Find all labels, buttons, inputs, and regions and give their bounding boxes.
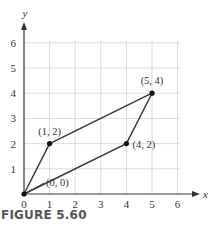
y-tick-label: 5: [11, 62, 17, 74]
x-tick-label: 6: [175, 198, 181, 210]
y-axis-label: y: [22, 7, 28, 19]
x-tick-label: 5: [149, 198, 155, 210]
vertex-label: (1, 2): [38, 126, 61, 138]
vertex-dot-icon: [21, 191, 26, 196]
label-leader-line: [28, 183, 44, 192]
y-tick-label: 3: [11, 112, 17, 124]
vertex-dot-icon: [149, 91, 154, 96]
x-axis-arrow-icon: [192, 191, 200, 197]
axes: xy: [21, 7, 208, 200]
x-axis-label: x: [202, 188, 208, 200]
vertex-label: (4, 2): [132, 139, 155, 151]
y-tick-label: 1: [11, 163, 17, 175]
y-tick-label: 2: [11, 138, 17, 150]
vertex-dot-icon: [47, 141, 52, 146]
vertex-dot-icon: [124, 141, 129, 146]
y-axis-arrow-icon: [21, 22, 27, 30]
vertex-label: (0, 0): [46, 177, 69, 189]
tick-labels: 0123456123456: [11, 37, 181, 210]
parallelogram-figure: xy 0123456123456 (0, 0)(1, 2)(5, 4)(4, 2…: [0, 0, 217, 233]
y-tick-label: 4: [11, 87, 17, 99]
figure-caption: FIGURE 5.60: [1, 208, 87, 222]
x-tick-label: 3: [98, 198, 104, 210]
y-tick-label: 6: [11, 37, 17, 49]
vertex-label: (5, 4): [141, 75, 164, 87]
x-tick-label: 4: [124, 198, 130, 210]
